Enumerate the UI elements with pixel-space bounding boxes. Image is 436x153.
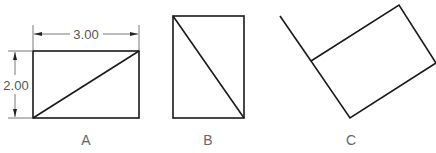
figure-c: C — [280, 5, 436, 148]
figure-b: B — [173, 16, 244, 148]
width-dimension-text: 3.00 — [73, 27, 98, 42]
figure-label-c: C — [346, 132, 356, 148]
diagram-canvas: 3.00 2.00 A B C — [0, 0, 436, 153]
width-dimension: 3.00 — [33, 25, 139, 50]
height-dimension: 2.00 — [3, 51, 32, 118]
diagonal-a — [33, 51, 139, 118]
figure-a: 3.00 2.00 A — [3, 25, 139, 148]
rectangle-c — [311, 5, 436, 118]
arrow-left-icon — [34, 32, 42, 36]
extension-line-c — [280, 16, 311, 61]
figure-label-b: B — [203, 132, 212, 148]
arrow-down-icon — [13, 109, 17, 117]
height-dimension-text: 2.00 — [3, 78, 28, 93]
arrow-up-icon — [13, 52, 17, 60]
figure-label-a: A — [81, 132, 91, 148]
arrow-right-icon — [130, 32, 138, 36]
diagonal-b — [173, 16, 244, 118]
